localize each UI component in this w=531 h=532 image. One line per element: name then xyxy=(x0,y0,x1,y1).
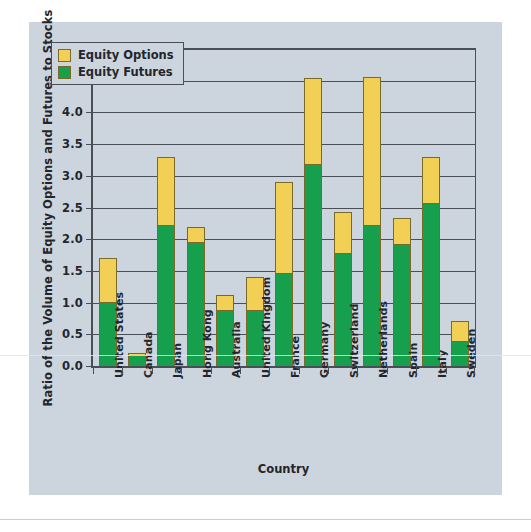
x-axis-category-label: France xyxy=(289,336,302,378)
x-axis-category-label: Netherlands xyxy=(377,301,390,378)
x-axis-category-label: Japan xyxy=(171,343,184,378)
bar-segment-equity-options xyxy=(304,78,322,165)
legend-swatch-options-icon xyxy=(58,49,71,62)
bar-stack xyxy=(422,157,440,366)
x-axis-tick xyxy=(211,366,212,374)
y-axis-tick-label: 2.0 xyxy=(62,232,83,246)
y-axis-tick-label: 3.5 xyxy=(62,137,83,151)
bar-series-group xyxy=(93,49,475,366)
x-axis-category-label: Spain xyxy=(407,343,420,378)
y-axis-tick xyxy=(86,334,92,335)
y-axis-tick xyxy=(86,208,92,209)
legend-item-equity-options: Equity Options xyxy=(58,48,174,62)
y-axis-tick xyxy=(86,176,92,177)
y-axis-tick xyxy=(86,271,92,272)
bar-stack xyxy=(157,157,175,366)
bar-segment-equity-options xyxy=(363,77,381,225)
legend-item-equity-futures: Equity Futures xyxy=(58,65,174,79)
x-axis-tick xyxy=(474,366,475,374)
x-axis-tick xyxy=(93,366,94,374)
x-axis-tick xyxy=(357,366,358,374)
y-axis-tick-label: 2.5 xyxy=(62,201,83,215)
x-axis-category-label: Australia xyxy=(230,321,243,378)
y-axis-tick-label: 3.0 xyxy=(62,169,83,183)
x-axis-category-label: Germany xyxy=(318,321,331,378)
x-axis-tick xyxy=(416,366,417,374)
y-axis-tick-label: 1.0 xyxy=(62,296,83,310)
x-axis-tick xyxy=(122,366,123,374)
bar-segment-equity-futures xyxy=(422,203,440,366)
x-axis-category-label: Hong Kong xyxy=(201,309,214,378)
x-axis-category-label: United Kingdom xyxy=(260,277,273,378)
legend-label-equity-options: Equity Options xyxy=(78,48,174,62)
y-axis-title: Ratio of the Volume of Equity Options an… xyxy=(39,48,57,368)
x-axis-category-label: Switzerland xyxy=(348,304,361,378)
bar-segment-equity-options xyxy=(334,212,352,253)
y-axis-tick-label: 1.5 xyxy=(62,264,83,278)
x-axis-category-label: Canada xyxy=(142,331,155,378)
x-axis-category-label: Sweden xyxy=(465,329,478,378)
page-bottom-rule xyxy=(0,519,531,520)
y-axis-tick-label: 0.5 xyxy=(62,327,83,341)
bar-segment-equity-options xyxy=(422,157,440,203)
legend-label-equity-futures: Equity Futures xyxy=(78,65,173,79)
x-axis-tick xyxy=(181,366,182,374)
bar-segment-equity-options xyxy=(275,182,293,274)
x-axis-tick xyxy=(240,366,241,374)
x-axis-tick xyxy=(446,366,447,374)
x-axis-tick xyxy=(328,366,329,374)
y-axis-tick-label: 0.0 xyxy=(62,359,83,373)
y-axis-tick-label: 4.0 xyxy=(62,105,83,119)
y-axis-tick xyxy=(86,112,92,113)
bar-segment-equity-options xyxy=(216,295,234,310)
chart-page: Ratio of the Volume of Equity Options an… xyxy=(0,0,531,532)
y-axis-tick xyxy=(86,239,92,240)
x-axis-tick xyxy=(387,366,388,374)
x-axis-tick xyxy=(152,366,153,374)
bar-segment-equity-options xyxy=(157,157,175,225)
x-axis-tick xyxy=(299,366,300,374)
x-axis-category-label: Italy xyxy=(436,350,449,378)
plot-area: 0.00.51.01.52.02.53.03.54.04.55.0 United… xyxy=(91,48,476,368)
chart-figure: Ratio of the Volume of Equity Options an… xyxy=(29,22,502,495)
y-axis-tick xyxy=(86,144,92,145)
chart-legend: Equity Options Equity Futures xyxy=(51,42,184,85)
x-axis-tick xyxy=(269,366,270,374)
legend-swatch-futures-icon xyxy=(58,66,71,79)
y-axis-tick xyxy=(86,366,92,367)
bar-segment-equity-options xyxy=(393,218,411,245)
x-axis-title: Country xyxy=(91,462,476,476)
y-axis-tick xyxy=(86,303,92,304)
x-axis-category-label: United States xyxy=(113,292,126,378)
bar-segment-equity-options xyxy=(187,227,205,242)
